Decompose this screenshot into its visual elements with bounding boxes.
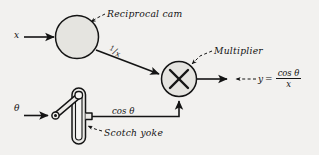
- output-numerator: cos θ: [276, 69, 302, 78]
- multiplier-label: Multiplier: [214, 46, 263, 55]
- reciprocal-cam-leader: [91, 14, 105, 22]
- scotch-yoke-label: Scotch yoke: [104, 128, 163, 137]
- scotch-yoke-node[interactable]: [52, 88, 92, 144]
- output-equals-sign: =: [265, 74, 273, 84]
- signal-cos-theta-label: cos θ: [112, 107, 134, 116]
- output-expression: y = cos θ x: [258, 69, 301, 89]
- multiplier-leader: [192, 51, 212, 64]
- reciprocal-cam-label: Reciprocal cam: [107, 9, 183, 18]
- engineering-block-diagram: Reciprocal cam Multiplier Scotch yoke x …: [0, 0, 319, 155]
- multiplier-node[interactable]: [162, 62, 197, 97]
- scotch-yoke-leader: [88, 126, 102, 131]
- output-lhs: y: [258, 74, 263, 84]
- reciprocal-cam-node[interactable]: [56, 16, 99, 59]
- signal-cos-theta-path: [92, 101, 179, 117]
- input-x-label: x: [14, 31, 19, 40]
- output-denominator: x: [284, 79, 293, 88]
- input-theta-label: θ: [14, 104, 19, 113]
- output-fraction: cos θ x: [276, 69, 302, 89]
- signal-one-over-x-arrow: [96, 50, 159, 74]
